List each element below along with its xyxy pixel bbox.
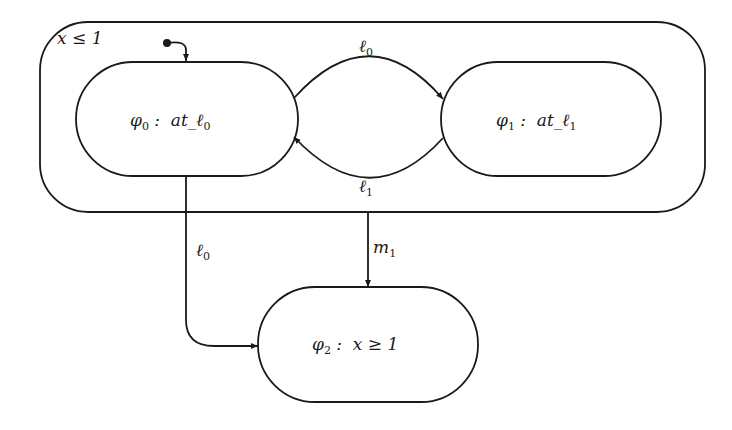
superstate-invariant: x ≤ 1 [57,28,102,48]
transition-phi0-to-phi2 [186,176,258,346]
state-phi0-label: φ0 : at_ℓ0 [130,110,210,133]
transition-label-l1-bottom: ℓ1 [359,176,373,199]
transition-label-l0-left: ℓ0 [196,240,210,263]
transition-label-l0-top: ℓ0 [359,36,373,59]
transition-phi0-to-phi1 [294,56,443,99]
state-phi1-label: φ1 : at_ℓ1 [496,110,576,133]
state-phi2-label: φ2 : x ≥ 1 [312,334,398,357]
transition-phi1-to-phi0 [294,137,443,178]
transition-label-m1: m1 [373,237,396,260]
statechart-diagram: x ≤ 1 φ0 : at_ℓ0 φ1 : at_ℓ1 ℓ0 ℓ1 ℓ0 m1 … [0,0,732,430]
